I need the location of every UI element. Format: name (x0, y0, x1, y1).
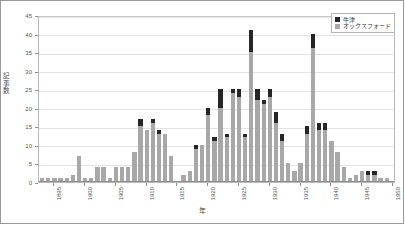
bar (280, 134, 284, 182)
x-tick-mark (361, 183, 362, 186)
x-tick-label: 1920 (210, 187, 216, 200)
bar-segment-bottom (145, 130, 149, 182)
y-tick-label: 10 (4, 143, 32, 149)
bar (169, 156, 173, 182)
bar (262, 100, 266, 182)
bar (274, 112, 278, 183)
bar-segment-bottom (335, 152, 339, 182)
bar-segment-top (274, 112, 278, 123)
bar (132, 152, 136, 182)
bar-segment-bottom (255, 100, 259, 182)
bar-segment-bottom (218, 108, 222, 182)
bar-segment-bottom (132, 152, 136, 182)
x-tick-label: 1930 (272, 187, 278, 200)
chart-root: 記事数 051015202530354045 18951900190519101… (0, 0, 405, 225)
bar-segment-bottom (298, 163, 302, 182)
bar-segment-bottom (151, 123, 155, 182)
bar-segment-bottom (323, 130, 327, 182)
y-tick-label: 40 (4, 32, 32, 38)
x-tick-mark (207, 183, 208, 186)
bar-segment-bottom (126, 167, 130, 182)
bar (126, 167, 130, 182)
bar (342, 167, 346, 182)
y-tick-mark (35, 16, 38, 17)
x-tick-label: 1905 (118, 187, 124, 200)
bar-segment-bottom (157, 134, 161, 182)
bar-segment-bottom (120, 167, 124, 182)
y-tick-mark (35, 90, 38, 91)
x-tick-mark (53, 183, 54, 186)
y-tick-label: 25 (4, 87, 32, 93)
bar (163, 134, 167, 182)
bar (305, 126, 309, 182)
x-tick-mark (176, 183, 177, 186)
x-tick-label: 1940 (333, 187, 339, 200)
bar (243, 134, 247, 182)
y-tick-mark (35, 164, 38, 165)
bar (268, 89, 272, 182)
bar-segment-bottom (194, 149, 198, 182)
bar-segment-top (249, 30, 253, 52)
bar (212, 137, 216, 182)
legend-item-0: 牛津 (335, 17, 391, 23)
bar-segment-bottom (329, 141, 333, 182)
bar-segment-bottom (225, 137, 229, 182)
bar (95, 167, 99, 182)
y-tick-label: 45 (4, 13, 32, 19)
legend-item-1: オックスフォード (335, 23, 391, 29)
x-tick-mark (115, 183, 116, 186)
x-tick-mark (238, 183, 239, 186)
x-tick-mark (269, 183, 270, 186)
bar-segment-bottom (169, 156, 173, 182)
bar-segment-top (323, 123, 327, 130)
bar (77, 156, 81, 182)
bar (138, 119, 142, 182)
bar-segment-top (311, 34, 315, 49)
bar (200, 145, 204, 182)
legend-swatch-icon (335, 24, 340, 29)
bar-segment-top (305, 126, 309, 133)
x-tick-mark (330, 183, 331, 186)
bar-series-group (39, 17, 394, 182)
y-tick-label: 30 (4, 69, 32, 75)
bar-segment-bottom (163, 134, 167, 182)
x-tick-mark (392, 183, 393, 186)
bar-segment-top (206, 108, 210, 115)
bar-segment-bottom (77, 156, 81, 182)
chart-legend: 牛津 オックスフォード (331, 13, 395, 33)
bar (329, 141, 333, 182)
x-tick-label: 1945 (364, 187, 370, 200)
y-tick-label: 15 (4, 124, 32, 130)
y-tick-label: 35 (4, 50, 32, 56)
bar-segment-bottom (317, 130, 321, 182)
bar-segment-bottom (231, 93, 235, 182)
bar (157, 130, 161, 182)
bar (317, 123, 321, 182)
bar-segment-bottom (237, 97, 241, 182)
x-tick-mark (84, 183, 85, 186)
bar (323, 123, 327, 182)
y-tick-mark (35, 72, 38, 73)
bar (311, 34, 315, 182)
bar-segment-top (280, 134, 284, 141)
x-tick-mark (146, 183, 147, 186)
x-axis-line (39, 181, 394, 182)
bar-segment-bottom (305, 134, 309, 182)
bar (145, 130, 149, 182)
bar-segment-bottom (138, 126, 142, 182)
bar-segment-top (237, 89, 241, 96)
bar-segment-bottom (95, 167, 99, 182)
bar-segment-bottom (286, 163, 290, 182)
x-tick-mark (300, 183, 301, 186)
y-tick-mark (35, 146, 38, 147)
bar (151, 119, 155, 182)
legend-label: 牛津 (343, 17, 355, 23)
bar-segment-bottom (280, 141, 284, 182)
bar (225, 134, 229, 182)
bar (298, 163, 302, 182)
bar-segment-bottom (274, 123, 278, 182)
bar (101, 167, 105, 182)
x-axis-ticks: 1895190019051910191519201925193019351940… (38, 183, 395, 223)
bar (255, 89, 259, 182)
x-tick-label: 1925 (241, 187, 247, 200)
